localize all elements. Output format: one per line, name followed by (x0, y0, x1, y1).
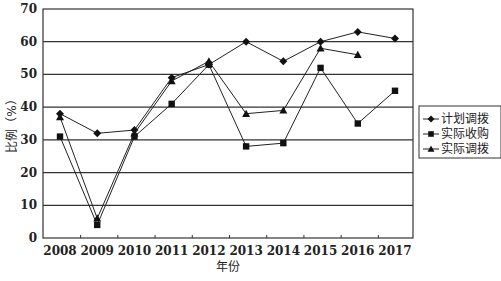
y-tick-label: 30 (20, 133, 37, 147)
series-diamond (56, 28, 399, 137)
y-axis-ticks: 010203040506070 (20, 2, 37, 245)
diamond-marker (93, 129, 101, 137)
y-tick-label: 60 (20, 35, 37, 49)
square-marker (317, 65, 323, 71)
legend-label: 计划调拨 (441, 112, 489, 126)
legend-label: 实际收购 (441, 126, 489, 141)
x-tick-label: 2014 (267, 244, 300, 258)
legend: 计划调拨实际收购实际调拨 (419, 106, 501, 158)
y-tick-label: 10 (20, 198, 37, 212)
y-tick-label: 70 (20, 2, 37, 16)
x-tick-label: 2013 (229, 244, 262, 258)
x-tick-label: 2009 (81, 244, 114, 258)
square-marker (243, 143, 249, 149)
legend-label: 实际调拨 (441, 141, 489, 156)
diamond-marker (279, 57, 287, 65)
triangle-marker (317, 44, 325, 51)
square-marker (57, 133, 63, 139)
square-marker (94, 222, 100, 228)
line-chart: 010203040506070 200820092010201120122013… (0, 0, 501, 281)
square-marker (168, 101, 174, 107)
diamond-marker (242, 38, 250, 46)
diamond-marker (354, 28, 362, 36)
y-tick-label: 20 (20, 166, 37, 180)
square-marker (392, 88, 398, 94)
series-square (57, 61, 398, 228)
x-tick-label: 2015 (304, 244, 337, 258)
triangle-marker (205, 57, 213, 64)
square-marker (355, 120, 361, 126)
x-tick-label: 2010 (118, 244, 151, 258)
data-series (56, 28, 399, 228)
y-tick-label: 0 (29, 231, 37, 245)
x-tick-label: 2012 (192, 244, 225, 258)
y-tick-label: 40 (20, 100, 37, 114)
x-tick-label: 2016 (341, 244, 374, 258)
x-tick-label: 2008 (43, 244, 76, 258)
y-tick-label: 50 (20, 67, 37, 81)
x-tick-label: 2017 (378, 244, 411, 258)
square-marker (280, 140, 286, 146)
y-axis-title: 比例（%） (5, 93, 19, 152)
x-tick-label: 2011 (155, 244, 188, 258)
square-marker (428, 131, 434, 137)
x-axis-title: 年份 (216, 260, 240, 274)
